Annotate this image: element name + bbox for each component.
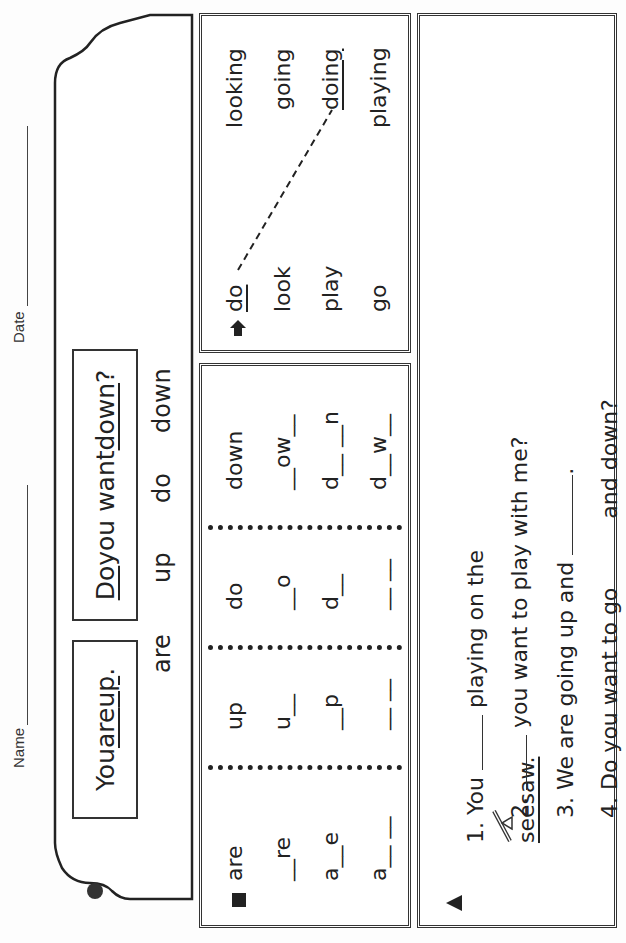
sentence-4: 4. Do you want to go and down? <box>572 399 626 860</box>
col-up-word: up <box>224 702 246 730</box>
word-bank-up: up <box>148 553 176 583</box>
col-are-row-2[interactable]: a__e <box>320 832 342 881</box>
match-left-go[interactable]: go <box>368 285 390 312</box>
col-do-row-1[interactable]: __o <box>272 575 294 610</box>
blank-2[interactable] <box>525 735 527 790</box>
col-do-row-2[interactable]: d__ <box>320 574 342 610</box>
col-down-row-1[interactable]: __ow__ <box>272 415 294 490</box>
match-left-look[interactable]: look <box>272 266 294 312</box>
word-ending-match-box: do look play go looking going doing play… <box>199 13 411 353</box>
column-divider <box>208 765 402 770</box>
match-left-play[interactable]: play <box>320 265 342 312</box>
match-right-looking[interactable]: looking <box>224 48 246 128</box>
col-do-word: do <box>224 583 246 610</box>
col-down-word: down <box>224 431 246 490</box>
blank-4[interactable] <box>615 526 617 581</box>
model-sentence-2: Do you want down? <box>72 349 138 621</box>
match-right-playing[interactable]: playing <box>368 47 390 128</box>
match-left-do[interactable]: do <box>224 285 246 312</box>
col-are-word: are <box>224 845 246 881</box>
triangle-bullet-icon <box>444 893 464 913</box>
col-down-row-3[interactable]: d__w__ <box>368 414 390 490</box>
punch-hole-dot <box>87 883 103 899</box>
col-up-row-2[interactable]: __p <box>320 694 342 730</box>
word-bank-do: do <box>148 473 176 503</box>
col-up-row-3[interactable]: __ __ <box>368 679 390 730</box>
column-divider <box>208 525 402 530</box>
match-right-going[interactable]: going <box>272 49 294 110</box>
col-do-row-3[interactable]: __ __ <box>368 559 390 610</box>
word-bank-down: down <box>148 368 176 433</box>
spelling-practice-box: are __re a__e a__ __ up u__ __p __ __ do… <box>199 363 411 928</box>
word-bank-are: are <box>148 634 176 673</box>
square-bullet-icon <box>232 893 246 907</box>
col-are-row-1[interactable]: __re <box>272 837 294 881</box>
col-down-row-2[interactable]: d__ __n <box>320 411 342 490</box>
fill-in-sentences-box: 1. You playing on the seesaw. 2. you wan… <box>417 13 617 928</box>
col-are-row-3[interactable]: a__ __ <box>368 817 390 881</box>
model-sentence-1: You are up. <box>72 640 138 819</box>
column-divider <box>208 645 402 650</box>
match-right-doing[interactable]: doing <box>320 49 342 110</box>
col-up-row-1[interactable]: u__ <box>272 694 294 730</box>
